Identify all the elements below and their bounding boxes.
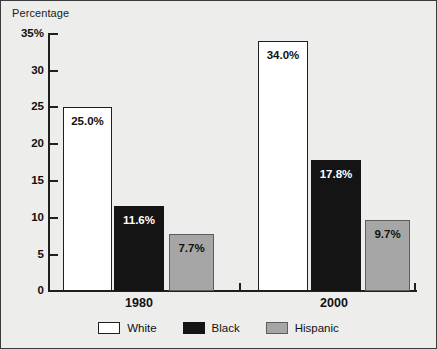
bar-value-label: 9.7% [366,228,409,240]
bar-value-label: 25.0% [64,115,111,127]
y-tick-15 [50,180,58,182]
x-axis-tick-mid [239,283,241,291]
y-tick-label-25: 25 [4,100,44,112]
legend-label-black: Black [212,322,240,334]
bar-2000-black[interactable]: 17.8% [311,160,361,291]
legend-label-white: White [127,322,156,334]
x-axis-group-label-1980: 1980 [101,296,177,310]
legend-item-hispanic[interactable]: Hispanic [266,322,339,334]
y-tick-25 [50,106,58,108]
chart-legend: White Black Hispanic [1,322,436,334]
y-tick-label-30: 30 [4,64,44,76]
bar-chart-figure: Percentage 35% 30 25 20 15 10 [0,0,437,349]
bar-value-label: 34.0% [259,49,307,61]
bar-1980-white[interactable]: 25.0% [63,107,112,291]
y-tick-35 [50,33,58,35]
bar-2000-hispanic[interactable]: 9.7% [365,220,410,291]
legend-label-hispanic: Hispanic [295,322,339,334]
bar-2000-white[interactable]: 34.0% [258,41,308,291]
bar-value-label: 11.6% [115,214,163,226]
bar-value-label: 7.7% [170,242,213,254]
y-tick-label-35: 35% [4,27,44,39]
y-tick-label-0: 0 [4,284,44,296]
bar-value-label: 17.8% [312,168,360,180]
y-tick-5 [50,254,58,256]
bar-1980-black[interactable]: 11.6% [114,206,164,291]
legend-item-white[interactable]: White [98,322,156,334]
x-axis-group-label-2000: 2000 [296,296,372,310]
y-tick-20 [50,143,58,145]
y-tick-label-15: 15 [4,174,44,186]
legend-swatch-icon-hispanic [266,322,288,334]
y-tick-30 [50,70,58,72]
bar-1980-hispanic[interactable]: 7.7% [169,234,214,291]
y-tick-label-10: 10 [4,211,44,223]
legend-swatch-icon-black [183,322,205,334]
plot-area: 35% 30 25 20 15 10 5 0 [1,1,437,349]
x-axis-tick-end [414,283,416,291]
y-tick-10 [50,217,58,219]
legend-swatch-icon-white [98,322,120,334]
y-tick-label-20: 20 [4,137,44,149]
y-tick-label-5: 5 [4,248,44,260]
legend-item-black[interactable]: Black [183,322,240,334]
